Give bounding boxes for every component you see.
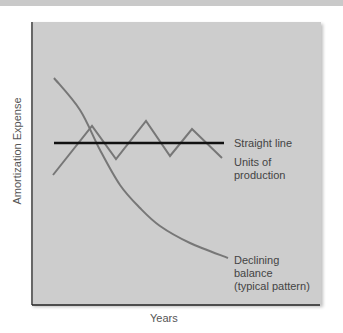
- legend-units-line1: Units of: [234, 156, 271, 169]
- legend-declining-line2: balance: [234, 267, 273, 280]
- legend-declining-line3: (typical pattern): [234, 280, 310, 293]
- legend-declining-line1: Declining: [234, 254, 279, 267]
- units-of-production-line: [53, 121, 222, 175]
- x-axis-label: Years: [150, 312, 178, 324]
- legend-units-line2: production: [234, 169, 285, 182]
- declining-balance-line: [54, 78, 228, 258]
- y-axis-label: Amortization Expense: [11, 96, 23, 206]
- legend-straight-line: Straight line: [234, 137, 292, 150]
